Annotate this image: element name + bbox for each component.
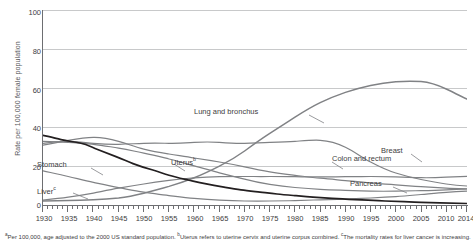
x-axis-tick-1990 [345, 206, 346, 212]
y-axis-line [42, 10, 43, 206]
x-axis-tick-1944 [113, 206, 114, 209]
x-axis-tick-1965 [219, 206, 220, 212]
x-axis-tick-1974 [264, 206, 265, 209]
x-axis-tick-1971 [249, 206, 250, 209]
x-axis-tick-1946 [123, 206, 124, 209]
x-axis-tick-2008 [436, 206, 437, 209]
x-tick-1955: 1955 [161, 214, 178, 223]
x-axis-tick-1958 [183, 206, 184, 209]
series-label-lung-and-bronchus: Lung and bronchus [194, 108, 258, 116]
x-axis-tick-1932 [52, 206, 53, 209]
series-label-uterus: Uterusb [171, 157, 196, 166]
x-axis-tick-2014 [466, 206, 467, 212]
x-tick-2000: 2000 [388, 214, 405, 223]
x-axis-tick-1964 [214, 206, 215, 209]
x-axis-tick-1936 [72, 206, 73, 209]
footnote-text-a: Per 100,000, age adjusted to the 2000 US… [8, 234, 178, 240]
series-label-liver-text: Liver [37, 187, 53, 196]
x-tick-2010: 2010 [438, 214, 455, 223]
x-tick-1945: 1945 [111, 214, 128, 223]
x-axis-tick-2002 [405, 206, 406, 209]
x-tick-1950: 1950 [136, 214, 153, 223]
series-label-colon-and-rectum: Colon and rectum [332, 155, 391, 163]
x-axis-tick-2011 [451, 206, 452, 209]
x-axis-tick-1975 [269, 206, 270, 212]
x-axis-tick-1933 [57, 206, 58, 209]
x-tick-1980: 1980 [287, 214, 304, 223]
x-axis-tick-1949 [138, 206, 139, 209]
x-axis-tick-1967 [229, 206, 230, 209]
x-axis-tick-2013 [461, 206, 462, 209]
x-axis-tick-1979 [289, 206, 290, 209]
x-axis-tick-2006 [426, 206, 427, 209]
x-axis-tick-1935 [67, 206, 68, 212]
x-axis-tick-1930 [42, 206, 43, 212]
series-label-uterus-superscript: b [193, 156, 196, 162]
x-axis-tick-1991 [350, 206, 351, 209]
x-axis-tick-2004 [416, 206, 417, 209]
series-label-liver-superscript: c [53, 185, 56, 191]
x-axis-tick-2007 [431, 206, 432, 209]
x-axis-tick-1963 [209, 206, 210, 209]
x-axis-tick-1988 [335, 206, 336, 209]
footnote: aPer 100,000, age adjusted to the 2000 U… [5, 232, 471, 242]
leader-line-breast [411, 154, 422, 162]
series-label-liver: Liverc [37, 186, 56, 195]
x-axis-tick-1937 [77, 206, 78, 209]
x-axis-tick-2010 [446, 206, 447, 212]
series-line-breast [43, 140, 467, 186]
x-axis-tick-1980 [294, 206, 295, 212]
chart-figure: Rate per 100,000 female population 100 8… [0, 0, 473, 247]
x-axis-tick-1972 [254, 206, 255, 209]
x-axis-tick-1947 [128, 206, 129, 209]
x-axis-ticks [42, 206, 468, 213]
x-axis-tick-1983 [310, 206, 311, 209]
x-axis-tick-1953 [158, 206, 159, 209]
x-tick-1985: 1985 [312, 214, 329, 223]
x-tick-2005: 2005 [413, 214, 430, 223]
footnote-text-c: The mortality rates for liver cancer is … [343, 234, 470, 240]
x-axis-tick-2001 [400, 206, 401, 209]
series-label-pancreas: Pancreas [350, 180, 382, 188]
x-axis-tick-1939 [87, 206, 88, 209]
leader-line-stomach [91, 168, 103, 175]
x-axis-tick-1931 [47, 206, 48, 209]
x-axis-tick-1970 [244, 206, 245, 212]
x-axis-tick-1981 [299, 206, 300, 209]
y-tick-0: 0 [19, 202, 41, 210]
x-axis-tick-1987 [330, 206, 331, 209]
x-axis-tick-1951 [148, 206, 149, 209]
series-line-uterus [43, 141, 467, 191]
x-axis-tick-1973 [259, 206, 260, 209]
x-tick-2014: 2014 [458, 214, 473, 223]
x-tick-1960: 1960 [187, 214, 204, 223]
x-axis-tick-2012 [456, 206, 457, 209]
x-axis-tick-1959 [188, 206, 189, 209]
x-axis-tick-1998 [385, 206, 386, 209]
x-axis-tick-1994 [365, 206, 366, 209]
series-label-uterus-text: Uterus [171, 158, 193, 167]
x-axis-tick-1999 [390, 206, 391, 209]
x-tick-1965: 1965 [212, 214, 229, 223]
x-axis-tick-1940 [92, 206, 93, 212]
y-tick-100: 100 [19, 9, 41, 17]
x-axis-tick-2005 [421, 206, 422, 212]
y-axis-tick-labels: 100 80 60 40 20 0 [0, 0, 41, 215]
x-axis-tick-1960 [193, 206, 194, 212]
x-tick-1990: 1990 [338, 214, 355, 223]
x-axis-tick-1956 [173, 206, 174, 209]
series-label-stomach: Stomach [37, 161, 67, 169]
x-axis-tick-2009 [441, 206, 442, 209]
x-axis-tick-2000 [395, 206, 396, 212]
x-axis-tick-labels: 1930 1935 1940 1945 1950 1955 1960 1965 … [0, 214, 473, 226]
y-tick-40: 40 [19, 125, 41, 133]
x-axis-tick-1950 [143, 206, 144, 212]
x-axis-tick-1996 [375, 206, 376, 209]
x-axis-tick-1993 [360, 206, 361, 209]
footnote-text-b: Uterus refers to uterine cervix and uter… [180, 234, 341, 240]
x-axis-tick-1976 [274, 206, 275, 209]
x-tick-1975: 1975 [262, 214, 279, 223]
x-axis-tick-1952 [153, 206, 154, 209]
x-axis-tick-1934 [62, 206, 63, 209]
x-tick-1970: 1970 [237, 214, 254, 223]
